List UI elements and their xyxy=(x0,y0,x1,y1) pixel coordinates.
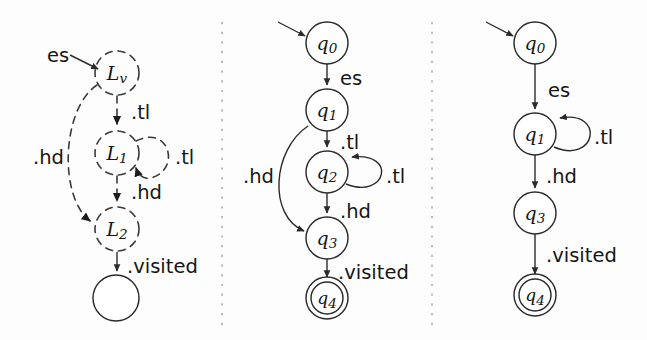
panel-right: q0 q1 q3 q4 es .tl .hd .visited xyxy=(486,22,617,316)
edge-start-to-q0-middle xyxy=(278,22,305,36)
node-L-final[interactable] xyxy=(93,275,139,321)
panel-middle: q0 q1 q2 q3 q4 es .tl .tl .hd .hd .visit… xyxy=(243,22,409,319)
node-label-Lv: Lv xyxy=(106,62,128,86)
edge-label-right-es: es xyxy=(548,79,570,102)
edge-label-left-es: es xyxy=(47,44,69,67)
edge-label-left-tl-loop: .tl xyxy=(175,146,194,169)
panel-left: Lv L1 L2 es .tl .tl .hd .hd .visited xyxy=(33,44,198,322)
node-label-L1: L1 xyxy=(105,142,127,166)
edge-q2-self-loop-middle xyxy=(346,157,382,188)
automata-figure: Lv L1 L2 es .tl .tl .hd .hd .visited xyxy=(0,0,647,340)
figure-canvas: Lv L1 L2 es .tl .tl .hd .hd .visited xyxy=(0,0,647,340)
edge-label-left-visited: .visited xyxy=(127,255,198,278)
edge-L1-self-loop xyxy=(136,137,168,178)
edge-label-right-visited: .visited xyxy=(546,244,617,267)
edge-start-to-Lv xyxy=(70,55,98,69)
edge-label-right-hd: .hd xyxy=(546,165,577,188)
edge-label-left-hd-bypass: .hd xyxy=(33,146,64,169)
edge-q1-to-q3-bypass-middle xyxy=(279,126,308,231)
edge-label-right-tl-loop: .tl xyxy=(594,126,613,149)
edge-label-middle-tl-down: .tl xyxy=(340,131,359,154)
edge-label-left-tl-down: .tl xyxy=(131,101,150,124)
edge-q1-self-loop-right xyxy=(554,117,590,150)
edge-label-middle-es: es xyxy=(340,67,362,90)
node-label-L2: L2 xyxy=(105,218,127,242)
edge-label-middle-hd-down: .hd xyxy=(340,200,371,223)
edge-label-middle-visited: .visited xyxy=(338,261,409,284)
edge-label-left-hd-down: .hd xyxy=(131,181,162,204)
edge-start-to-q0-right xyxy=(486,22,513,36)
edge-label-middle-tl-loop: .tl xyxy=(386,165,405,188)
edge-label-middle-hd-bypass: .hd xyxy=(243,165,274,188)
edge-Lv-to-L2-bypass xyxy=(68,85,97,221)
